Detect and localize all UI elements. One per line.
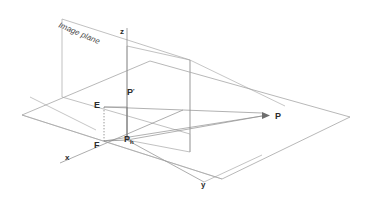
ground-plane-diagonal [22,115,222,179]
y-axis-extension [204,155,262,182]
x-axis-label: x [65,153,70,162]
z-axis-label: z [120,27,124,36]
ray-projected-point-to-point [127,116,262,140]
right-plane-cross-line [190,60,285,106]
point-label-p: P [275,111,281,121]
point-label-p-h: Ph [124,134,134,145]
point-label-f: F [94,140,100,150]
point-label-p-prime-mark: ′ [133,88,135,94]
point-label-p-prime: P′ [127,87,135,97]
image-plane-base-cross-line [30,97,96,130]
point-label-p-h-subscript: h [130,139,134,145]
ray-arrowhead-icon [262,112,270,119]
ground-plane [22,61,350,179]
perspective-projection-figure: Image plane x y z E P′ F Ph P [0,0,373,205]
ray-eye-to-point [104,107,262,113]
figure-canvas: Image plane x y z E P′ F Ph P [0,0,373,205]
x-axis-line [60,110,183,163]
point-label-e: E [94,100,100,110]
y-axis-label: y [201,180,206,189]
